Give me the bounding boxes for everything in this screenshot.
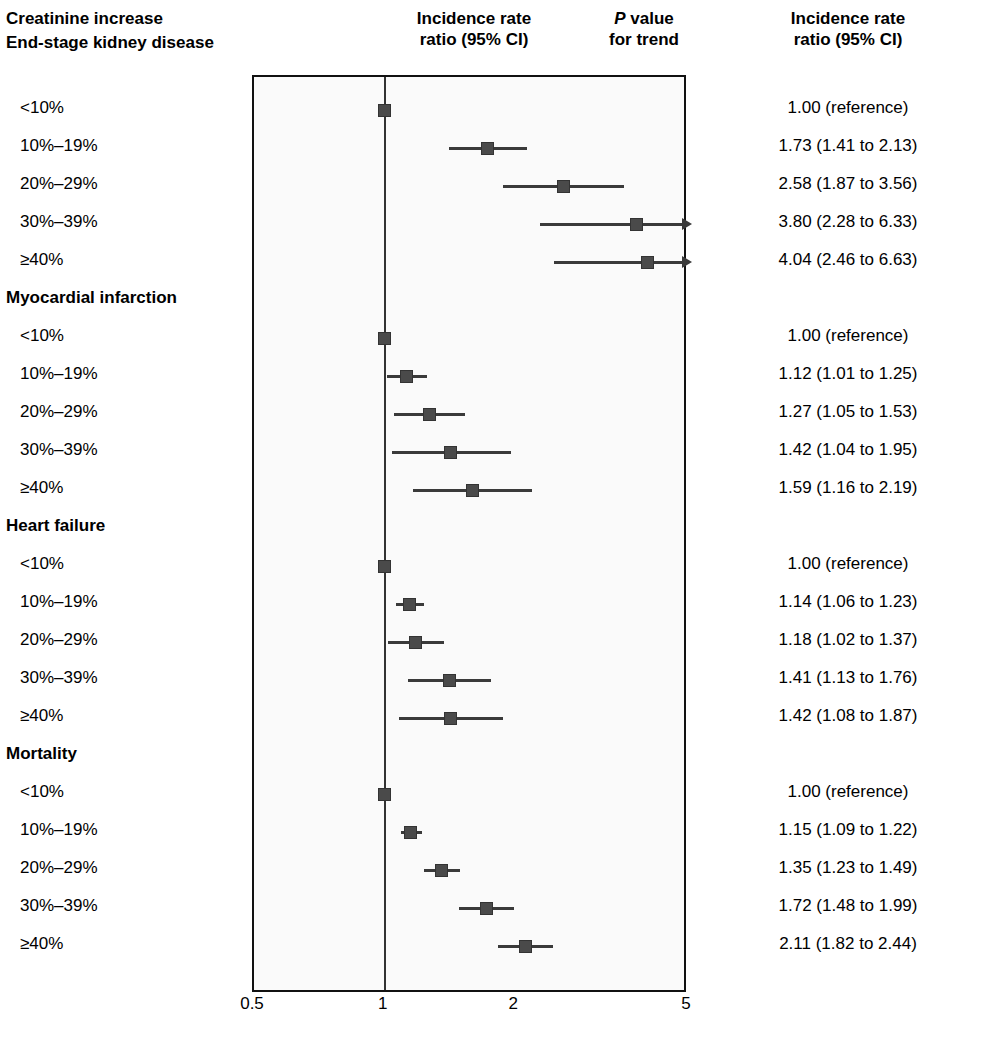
column-header-estimates: Incidence rate ratio (95% CI) [716, 8, 980, 50]
plot-area [252, 75, 686, 992]
point-estimate-marker [444, 712, 457, 725]
x-axis-tick-label: 1 [353, 994, 413, 1014]
estimate-text: 1.35 (1.23 to 1.49) [716, 858, 980, 878]
row-label: ≥40% [20, 706, 63, 726]
row-label: 30%–39% [20, 440, 98, 460]
row-label: <10% [20, 98, 64, 118]
row-label: 20%–29% [20, 402, 98, 422]
point-estimate-marker [641, 256, 654, 269]
estimate-text: 2.11 (1.82 to 2.44) [716, 934, 980, 954]
group-label-myocardial-infarction: Myocardial infarction [6, 288, 177, 308]
estimate-text: 1.41 (1.13 to 1.76) [716, 668, 980, 688]
group-label-mortality: Mortality [6, 744, 77, 764]
point-estimate-marker [444, 446, 457, 459]
confidence-interval-line [540, 223, 684, 226]
column-header-creatinine-increase: Creatinine increase [6, 8, 163, 29]
row-label: 20%–29% [20, 858, 98, 878]
estimate-text: 4.04 (2.46 to 6.63) [716, 250, 980, 270]
point-estimate-marker [409, 636, 422, 649]
row-label: ≥40% [20, 250, 63, 270]
row-label: 10%–19% [20, 136, 98, 156]
column-header-estimates-line1: Incidence rate [791, 9, 905, 28]
point-estimate-marker [466, 484, 479, 497]
row-label: <10% [20, 782, 64, 802]
group-label-end-stage-kidney-disease: End-stage kidney disease [6, 32, 214, 53]
forest-plot-figure: Creatinine increase Incidence rate ratio… [0, 0, 984, 1046]
x-axis-tick-label: 2 [483, 994, 543, 1014]
point-estimate-marker [378, 560, 391, 573]
ci-truncation-arrow-icon [682, 218, 692, 230]
point-estimate-marker [435, 864, 448, 877]
estimate-text: 1.42 (1.08 to 1.87) [716, 706, 980, 726]
x-axis-tick-label: 0.5 [222, 994, 282, 1014]
column-header-estimates-line2: ratio (95% CI) [716, 29, 980, 50]
point-estimate-marker [378, 104, 391, 117]
column-header-p-value: P value for trend [592, 8, 696, 50]
estimate-text: 1.59 (1.16 to 2.19) [716, 478, 980, 498]
column-header-plot-line1: Incidence rate [417, 9, 531, 28]
estimate-text: 1.00 (reference) [716, 554, 980, 574]
point-estimate-marker [403, 598, 416, 611]
row-label: ≥40% [20, 934, 63, 954]
confidence-interval-line [554, 261, 684, 264]
point-estimate-marker [443, 674, 456, 687]
row-label: 10%–19% [20, 820, 98, 840]
point-estimate-marker [630, 218, 643, 231]
row-label: 20%–29% [20, 630, 98, 650]
column-header-plot: Incidence rate ratio (95% CI) [354, 8, 594, 50]
point-estimate-marker [404, 826, 417, 839]
column-header-p-line2: for trend [592, 29, 696, 50]
estimate-text: 1.73 (1.41 to 2.13) [716, 136, 980, 156]
point-estimate-marker [378, 332, 391, 345]
estimate-text: 1.00 (reference) [716, 326, 980, 346]
row-label: 30%–39% [20, 896, 98, 916]
estimate-text: 1.18 (1.02 to 1.37) [716, 630, 980, 650]
estimate-text: 1.14 (1.06 to 1.23) [716, 592, 980, 612]
row-label: 30%–39% [20, 212, 98, 232]
point-estimate-marker [519, 940, 532, 953]
estimate-text: 2.58 (1.87 to 3.56) [716, 174, 980, 194]
ci-truncation-arrow-icon [682, 256, 692, 268]
row-label: 10%–19% [20, 592, 98, 612]
point-estimate-marker [557, 180, 570, 193]
estimate-text: 1.12 (1.01 to 1.25) [716, 364, 980, 384]
point-estimate-marker [378, 788, 391, 801]
row-label: <10% [20, 554, 64, 574]
estimate-text: 1.42 (1.04 to 1.95) [716, 440, 980, 460]
estimate-text: 1.00 (reference) [716, 98, 980, 118]
row-label: ≥40% [20, 478, 63, 498]
x-axis-tick-label: 5 [656, 994, 716, 1014]
reference-line [384, 77, 386, 990]
p-value-word: value [626, 9, 674, 28]
point-estimate-marker [423, 408, 436, 421]
estimate-text: 1.15 (1.09 to 1.22) [716, 820, 980, 840]
column-header-plot-line2: ratio (95% CI) [354, 29, 594, 50]
row-label: 30%–39% [20, 668, 98, 688]
estimate-text: 1.27 (1.05 to 1.53) [716, 402, 980, 422]
estimate-text: 3.80 (2.28 to 6.33) [716, 212, 980, 232]
estimate-text: 1.00 (reference) [716, 782, 980, 802]
row-label: <10% [20, 326, 64, 346]
estimate-text: 1.72 (1.48 to 1.99) [716, 896, 980, 916]
p-italic: P [614, 9, 625, 28]
row-label: 10%–19% [20, 364, 98, 384]
point-estimate-marker [400, 370, 413, 383]
row-label: 20%–29% [20, 174, 98, 194]
point-estimate-marker [480, 902, 493, 915]
group-label-heart-failure: Heart failure [6, 516, 105, 536]
point-estimate-marker [481, 142, 494, 155]
